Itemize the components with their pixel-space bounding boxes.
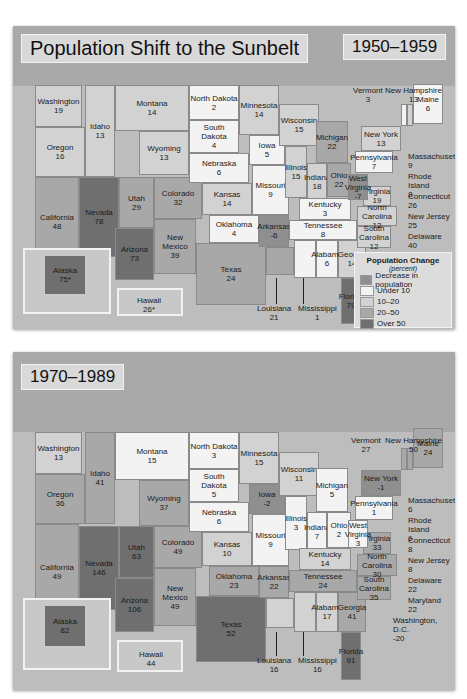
- state-missouri: Missouri9: [252, 165, 289, 215]
- label-delaware: Delaware22: [408, 576, 442, 594]
- state-oregon: Oregon16: [35, 127, 85, 177]
- period-label: 1950–1959: [343, 34, 446, 60]
- period-label: 1970–1989: [21, 364, 124, 390]
- state-south-dakota: South Dakota4: [189, 120, 239, 153]
- label-mississippi: Mississippi16: [298, 656, 337, 674]
- state-south-carolina: South Carolina35: [357, 576, 391, 600]
- state-kentucky: Kentucky14: [299, 548, 351, 570]
- label-washington-dc: Washington, D.C.-20: [393, 616, 455, 643]
- arrow-louisiana: [276, 632, 277, 656]
- state-oklahoma: Oklahoma23: [209, 566, 259, 596]
- state-louisiana-shape: [266, 598, 294, 628]
- legend-item-10-20: 10–20: [360, 296, 446, 307]
- label-maryland: Maryland22: [408, 596, 441, 614]
- state-wisconsin: Wisconsin15: [279, 104, 319, 146]
- state-north-dakota: North Dakota2: [189, 85, 239, 120]
- state-indiana: Indiana7: [307, 512, 327, 552]
- state-alabama: Alabama6: [316, 240, 338, 278]
- state-new-york: New York-1: [361, 470, 401, 496]
- state-colorado: Colorado32: [154, 177, 202, 219]
- state-nebraska: Nebraska6: [189, 502, 249, 532]
- state-montana: Montana14: [115, 85, 189, 131]
- state-illinois: Illinois15: [285, 146, 307, 198]
- state-idaho: Idaho41: [85, 432, 115, 524]
- state-missouri: Missouri9: [252, 514, 289, 566]
- state-north-carolina: North Carolina30: [357, 554, 397, 576]
- legend: Population Change (percent) Decrease in …: [354, 252, 452, 328]
- label-massachusetts: Massachusetts9: [408, 152, 455, 170]
- legend-item-decrease: Decrease in population: [360, 274, 446, 285]
- state-alaska: Alaska75*: [45, 256, 85, 294]
- state-michigan: Michigan5: [316, 468, 348, 512]
- state-nebraska: Nebraska6: [189, 153, 249, 183]
- label-connecticut: Connecticut8: [408, 536, 450, 554]
- label-new-jersey: New Jersey25: [408, 212, 450, 230]
- inset-alaska: Alaska82: [23, 598, 111, 670]
- state-north-carolina: North Carolina12: [357, 206, 397, 226]
- state-oregon: Oregon36: [35, 474, 85, 524]
- state-pennsylvania: Pennsylvania7: [355, 151, 393, 173]
- state-minnesota: Minnesota14: [239, 85, 279, 135]
- state-south-dakota: South Dakota5: [189, 469, 239, 502]
- state-idaho: Idaho13: [85, 85, 115, 177]
- state-mississippi-shape: [294, 240, 316, 278]
- state-kentucky: Kentucky3: [299, 198, 351, 220]
- arrow-mississippi: [303, 632, 304, 656]
- inset-hawaii: Hawaii44: [117, 640, 183, 672]
- state-washington: Washington13: [35, 432, 82, 474]
- state-texas: Texas52: [196, 596, 266, 662]
- state-west-virginia: West Virginia3: [348, 520, 368, 548]
- state-texas: Texas24: [196, 243, 266, 305]
- legend-title: Population Change: [360, 256, 446, 265]
- state-north-dakota: North Dakota3: [189, 432, 239, 469]
- main-title: Population Shift to the Sunbelt: [21, 34, 308, 63]
- state-alabama: Alabama17: [316, 592, 338, 632]
- state-new-mexico: New Mexico49: [154, 568, 196, 626]
- state-washington: Washington19: [35, 85, 82, 127]
- inset-hawaii: Hawaii26*: [117, 288, 183, 316]
- state-wisconsin: Wisconsin11: [279, 452, 319, 496]
- state-new-mexico: New Mexico39: [154, 219, 196, 274]
- state-arizona: Arizona106: [115, 578, 154, 632]
- map-panel-1950-1959: Population Shift to the Sunbelt 1950–195…: [13, 26, 455, 329]
- label-new-hampshire: New Hampshire13: [385, 86, 442, 104]
- state-mississippi-shape: [294, 592, 316, 632]
- state-colorado: Colorado49: [154, 526, 202, 568]
- state-wyoming: Wyoming13: [139, 131, 189, 175]
- state-new-york: New York13: [361, 126, 401, 151]
- state-wyoming: Wyoming37: [139, 480, 189, 526]
- label-new-hampshire: New Hampshire50: [385, 436, 442, 454]
- state-west-virginia: West Virginia-7: [348, 174, 368, 200]
- state-hawaii: Hawaii44: [139, 650, 163, 668]
- arrow-mississippi: [303, 278, 304, 304]
- state-michigan: Michigan22: [316, 121, 348, 163]
- state-arizona: Arizona73: [115, 228, 154, 280]
- label-louisiana: Louisiana21: [257, 304, 291, 322]
- map-panel-1970-1989: 1970–1989 Washington13 Oregon36 Californ…: [13, 352, 455, 690]
- state-hawaii: Hawaii26*: [137, 296, 161, 314]
- state-arkansas: Arkansas-6: [259, 215, 289, 247]
- label-massachusetts: Massachusetts6: [408, 496, 455, 514]
- state-montana: Montana15: [115, 432, 189, 480]
- state-kansas: Kansas10: [202, 532, 252, 566]
- legend-item-20-50: 20–50: [360, 307, 446, 318]
- label-vermont: Vermont27: [351, 436, 381, 454]
- arrow-louisiana: [276, 278, 277, 304]
- state-tennessee: Tennessee24: [289, 570, 357, 592]
- state-nevada: Nevada78: [79, 177, 119, 257]
- state-florida: Florida91: [341, 632, 361, 680]
- state-louisiana-shape: [266, 247, 294, 275]
- legend-item-over-50: Over 50: [360, 318, 446, 329]
- label-delaware: Delaware40: [408, 232, 442, 250]
- state-utah: Utah29: [119, 177, 154, 228]
- label-mississippi: Mississippi1: [298, 304, 337, 322]
- state-utah: Utah63: [119, 526, 154, 578]
- state-minnesota: Minnesota15: [239, 432, 279, 484]
- label-louisiana: Louisiana16: [257, 656, 291, 674]
- inset-alaska: Alaska75*: [23, 248, 111, 314]
- state-kansas: Kansas14: [202, 183, 252, 215]
- state-tennessee: Tennessee8: [289, 220, 357, 240]
- label-new-jersey: New Jersey8: [408, 556, 450, 574]
- label-vermont: Vermont3: [353, 86, 383, 104]
- state-arkansas: Arkansas22: [259, 566, 289, 598]
